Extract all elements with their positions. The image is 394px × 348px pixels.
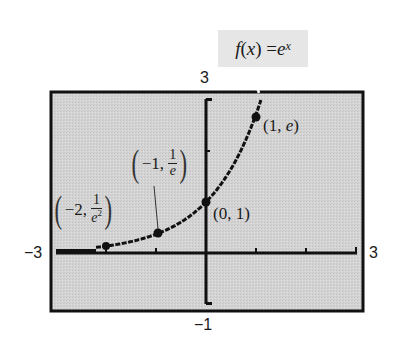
paren-open: ( xyxy=(132,144,140,182)
function-arg: x xyxy=(247,38,255,60)
coord-y-fraction: 1e xyxy=(168,148,177,178)
denominator: e xyxy=(168,164,177,179)
point-neg2-label: (−2, 1e2) xyxy=(52,190,115,228)
paren-close: ) xyxy=(180,144,188,182)
graph-canvas xyxy=(0,0,394,348)
exponent: 2 xyxy=(97,208,102,218)
coord-x: −1, xyxy=(142,154,164,173)
xmin-label: −3 xyxy=(24,245,42,261)
equals: ) = xyxy=(255,38,277,60)
paren-close: ) xyxy=(105,190,113,228)
point-0-label: (0, 1) xyxy=(213,205,250,222)
coord-open: (1, xyxy=(263,116,286,135)
ymax-label: 3 xyxy=(200,70,209,86)
denominator: e2 xyxy=(91,209,102,225)
coord-close: ) xyxy=(293,116,299,135)
exponent: x xyxy=(285,39,290,54)
numerator: 1 xyxy=(91,193,102,209)
point-neg1-label: (−1, 1e) xyxy=(129,144,190,182)
xmax-label: 3 xyxy=(369,245,378,261)
point-1-label: (1, e) xyxy=(263,117,299,134)
coord-y-fraction: 1e2 xyxy=(91,193,102,225)
exponential-graph-figure: f(x) = ex 3 −1 −3 3 (−2, 1e2) (−1, 1e) (… xyxy=(0,0,394,348)
point-1 xyxy=(252,113,261,122)
point-neg1 xyxy=(154,229,163,238)
point-neg2 xyxy=(102,242,110,250)
function-leader-line xyxy=(250,67,259,93)
point-0 xyxy=(202,198,211,207)
ymin-label: −1 xyxy=(194,317,212,333)
numerator: 1 xyxy=(168,148,177,164)
paren-open: ( xyxy=(55,190,63,228)
coord-x: −2, xyxy=(65,200,87,219)
function-label: f(x) = ex xyxy=(218,30,308,67)
